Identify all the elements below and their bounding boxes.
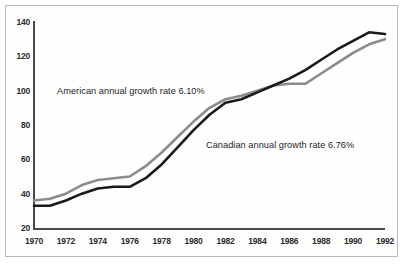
- plot-lines: [0, 0, 407, 267]
- annotation-american-growth-rate: American annual growth rate 6.10%: [57, 86, 205, 96]
- american-growth-line: [34, 32, 385, 205]
- chart-figure: 20406080100120140 1970197219741976197819…: [0, 0, 407, 267]
- annotation-canadian-growth-rate: Canadian annual growth rate 6.76%: [206, 140, 354, 150]
- canadian-growth-line: [34, 39, 385, 200]
